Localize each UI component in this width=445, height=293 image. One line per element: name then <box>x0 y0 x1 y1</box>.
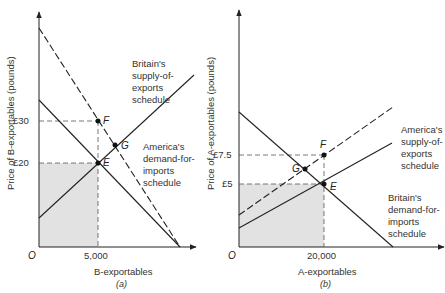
label-F-b: F <box>320 139 327 150</box>
ylabel-a: Price of B-exportables (pounds) <box>5 56 16 190</box>
point-G-b <box>303 167 308 172</box>
ytick-5: £5 <box>222 178 233 189</box>
chart-canvas: F E G £30 £20 5,000 O B-exportables (a) … <box>0 0 445 293</box>
panel-b: F E G £7.5 £5 20,000 O A-exportables (b)… <box>205 10 445 289</box>
label-E-a: E <box>103 157 110 168</box>
label-E-b: E <box>330 181 337 192</box>
ylabel-b: Price of A-exportables (pounds) <box>205 57 216 190</box>
point-E-b <box>322 182 327 187</box>
caption-b: (b) <box>320 279 331 289</box>
label-america-demand: America's demand-for- imports schedule <box>143 141 197 188</box>
panel-a: F E G £30 £20 5,000 O B-exportables (a) … <box>5 12 197 289</box>
label-G-a: G <box>121 140 129 151</box>
label-america-supply: America's supply-of- exports schedule <box>401 124 445 171</box>
point-E-a <box>96 161 101 166</box>
label-britain-demand: Britain's demand-for- imports schedule <box>388 192 442 239</box>
xlabel-b: A-exportables <box>298 266 357 277</box>
label-britain-supply: Britain's supply-of- exports schedule <box>132 58 176 105</box>
shaded-area-a <box>39 163 98 247</box>
origin-a: O <box>28 250 36 261</box>
shaded-area-b <box>239 184 324 247</box>
caption-a: (a) <box>116 279 127 289</box>
origin-b: O <box>228 250 236 261</box>
label-F-a: F <box>103 115 110 126</box>
xtick-20000: 20,000 <box>307 250 336 261</box>
point-G-a <box>113 143 118 148</box>
point-F-b <box>322 153 327 158</box>
xlabel-a: B-exportables <box>94 266 153 277</box>
xtick-5000: 5,000 <box>84 250 108 261</box>
point-F-a <box>96 119 101 124</box>
label-G-b: G <box>292 163 300 174</box>
